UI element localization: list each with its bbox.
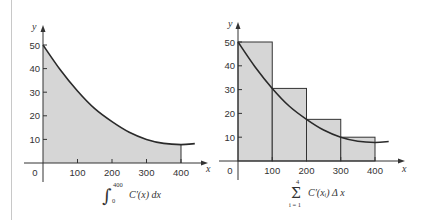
integral-lower-limit: 0 [112, 197, 115, 204]
x-axis-label: x [205, 163, 211, 174]
x-tick-label: 200 [104, 167, 120, 178]
y-tick-label: 30 [29, 87, 40, 98]
sum-expression: C′(xᵢ) Δ x [308, 187, 345, 199]
y-tick-label: 30 [224, 84, 235, 95]
y-tick-label: 10 [224, 132, 235, 143]
x-tick-label: 0 [227, 165, 232, 176]
x-tick-label: 0 [32, 167, 37, 178]
sigma-icon: Σ [291, 185, 301, 201]
integral-expression: C′(x) dx [129, 189, 161, 201]
y-tick-label: 50 [224, 37, 235, 48]
integral-sign-icon: ∫ [102, 185, 112, 206]
y-tick-label: 40 [29, 63, 40, 74]
x-tick-label: 400 [173, 167, 189, 178]
sum-caption: 4 Σ i = 1 C′(xᵢ) Δ x [289, 178, 345, 208]
x-axis-label: x [401, 163, 407, 174]
integral-upper-limit: 400 [113, 181, 123, 188]
x-tick-label: 300 [333, 165, 349, 176]
x-tick-label: 100 [70, 167, 86, 178]
y-axis-label: y [31, 21, 37, 32]
x-tick-label: 100 [264, 165, 280, 176]
integral-chart: 1020304050 0100200300400 y x ∫ 400 0 C′(… [24, 21, 211, 206]
y-tick-label: 50 [29, 40, 40, 51]
sum-lower-limit: i = 1 [289, 201, 301, 208]
y-tick-label: 20 [224, 108, 235, 119]
charts-canvas: 1020304050 0100200300400 y x ∫ 400 0 C′(… [0, 0, 423, 220]
y-axis-arrow-icon [236, 22, 241, 29]
riemann-sum-chart: 1020304050 0100200300400 y x 4 Σ i = 1 C… [219, 18, 407, 208]
x-tick-label: 400 [367, 165, 383, 176]
y-tick-label: 10 [29, 134, 40, 145]
y-tick-label: 40 [224, 60, 235, 71]
riemann-rectangles [238, 42, 375, 161]
sum-upper-limit: 4 [296, 178, 300, 185]
y-tick-label: 20 [29, 110, 40, 121]
x-tick-label: 300 [139, 167, 155, 178]
riemann-rectangle [238, 42, 272, 161]
integral-shaded-area [43, 45, 181, 163]
y-axis-label: y [227, 18, 233, 29]
riemann-rectangle [272, 88, 306, 161]
riemann-rectangle [307, 119, 341, 161]
y-axis-arrow-icon [41, 25, 46, 32]
integral-caption: ∫ 400 0 C′(x) dx [102, 181, 161, 206]
x-tick-label: 200 [299, 165, 315, 176]
